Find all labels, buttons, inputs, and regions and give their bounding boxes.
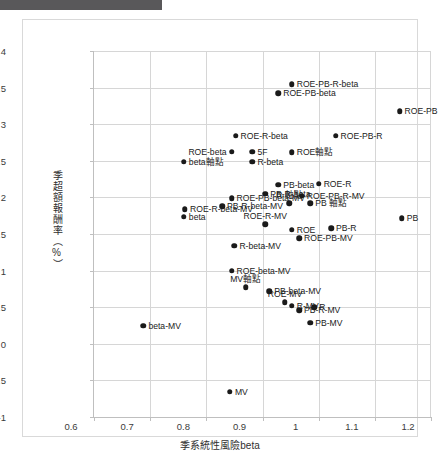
data-point: [141, 323, 147, 329]
data-point-label: ROE-PB-beta: [283, 89, 336, 98]
gridline-vertical: [150, 51, 151, 417]
data-point: [227, 389, 233, 395]
data-point-label: ROE-PB: [405, 107, 438, 116]
x-tick-mark: [375, 417, 376, 421]
y-tick-mark: [90, 161, 94, 162]
y-tick-label: 3: [0, 119, 6, 130]
data-point: [328, 225, 334, 231]
data-point-label: ROE-R: [324, 179, 352, 188]
y-tick-label: 0.5: [0, 302, 6, 313]
gridline-vertical: [375, 51, 376, 417]
data-point: [289, 227, 295, 233]
data-point-label: PB-R-beta-MV: [227, 202, 283, 211]
data-point: [233, 133, 239, 139]
y-tick-label: 2.5: [0, 155, 6, 166]
data-point-label: R: [319, 303, 325, 312]
data-point-label: beta: [189, 212, 206, 221]
data-point: [275, 182, 281, 188]
x-tick-label: 0.7: [107, 421, 147, 432]
y-axis-title: 季超額報酬率（%）: [47, 170, 63, 270]
data-point: [219, 203, 225, 209]
y-tick-mark: [90, 234, 94, 235]
data-point-label: MV軸點: [230, 275, 261, 284]
y-tick-label: -0.5: [0, 375, 6, 386]
data-point: [307, 201, 313, 207]
data-point-label: ROE-beta: [188, 147, 226, 156]
gridline-vertical: [206, 51, 207, 417]
data-point-label: ROE-R-MV: [244, 212, 287, 221]
data-point: [311, 304, 317, 310]
y-tick-mark: [90, 344, 94, 345]
data-point: [181, 214, 187, 220]
x-axis-title: 季系統性風險beta: [23, 437, 417, 452]
data-point: [243, 284, 249, 290]
y-tick-label: 4: [0, 46, 6, 57]
data-point: [289, 303, 295, 309]
data-point: [229, 149, 235, 155]
data-point: [181, 159, 187, 165]
data-point-label: ROE軸點: [297, 148, 334, 157]
data-point: [316, 181, 322, 187]
screenshot-root: ROE-PB-R-betaROE-PB-betaROE-PBROE-R-beta…: [0, 0, 439, 466]
data-point: [307, 320, 313, 326]
data-point: [399, 216, 405, 222]
data-point: [333, 133, 339, 139]
data-point-label: R-beta-MV: [239, 241, 281, 250]
x-tick-label: 1: [276, 421, 316, 432]
data-point: [397, 109, 403, 115]
data-point: [296, 235, 302, 241]
data-point: [229, 268, 235, 274]
y-tick-mark: [90, 271, 94, 272]
y-tick-mark: [90, 51, 94, 52]
data-point: [289, 82, 295, 88]
data-point-label: beta軸點: [189, 157, 224, 166]
x-tick-mark: [263, 417, 264, 421]
data-point: [182, 207, 188, 213]
data-point-label: PB: [407, 214, 418, 223]
data-point-label: R-beta: [257, 157, 283, 166]
data-point-label: PB-MV: [315, 318, 342, 327]
x-tick-label: 1.2: [388, 421, 428, 432]
data-point-label: PB 軸點: [315, 199, 347, 208]
data-point: [232, 243, 238, 249]
y-tick-label: 2: [0, 192, 6, 203]
chart-frame: ROE-PB-R-betaROE-PB-betaROE-PBROE-R-beta…: [22, 19, 418, 437]
data-point: [263, 222, 269, 228]
y-tick-mark: [90, 380, 94, 381]
x-tick-mark: [431, 417, 432, 421]
x-tick-mark: [94, 417, 95, 421]
y-tick-label: 3.5: [0, 82, 6, 93]
data-point: [250, 159, 256, 165]
page-header-bar: [0, 0, 162, 10]
data-point: [250, 149, 256, 155]
y-tick-mark: [90, 197, 94, 198]
x-tick-label: 0.6: [51, 421, 91, 432]
y-tick-mark: [90, 88, 94, 89]
data-point: [282, 300, 288, 306]
data-point-label: PB-R: [336, 224, 357, 233]
data-point: [275, 90, 281, 96]
data-point-label: R 軸點: [276, 191, 303, 200]
x-tick-label: 1.1: [332, 421, 372, 432]
y-tick-label: -1: [0, 412, 6, 423]
x-tick-mark: [206, 417, 207, 421]
data-point: [287, 201, 293, 207]
y-tick-mark: [90, 124, 94, 125]
gridline-vertical: [263, 51, 264, 417]
data-point: [289, 149, 295, 155]
data-point-label: ROE-MV: [268, 290, 302, 299]
x-tick-label: 0.8: [163, 421, 203, 432]
y-tick-label: 1: [0, 265, 6, 276]
y-tick-label: 0: [0, 338, 6, 349]
y-tick-label: 1.5: [0, 229, 6, 240]
x-tick-mark: [319, 417, 320, 421]
y-tick-mark: [90, 307, 94, 308]
data-point-label: ROE-PB-MV: [304, 234, 353, 243]
data-point: [296, 308, 302, 314]
data-point-label: beta-MV: [148, 321, 180, 330]
x-tick-label: 0.9: [220, 421, 260, 432]
data-point-label: ROE-PB-R: [341, 131, 383, 140]
data-point-label: ROE-R-beta: [241, 131, 288, 140]
data-point-label: MV: [235, 387, 248, 396]
x-tick-mark: [150, 417, 151, 421]
